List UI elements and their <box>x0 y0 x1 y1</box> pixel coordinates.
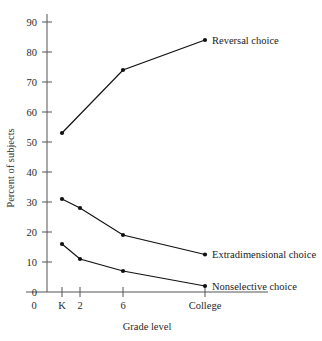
data-point-marker <box>203 252 207 256</box>
x-tick-label: K <box>58 300 66 311</box>
series-label-nonselective-choice: Nonselective choice <box>212 281 297 292</box>
series-line-reversal-choice <box>62 40 205 133</box>
series-label-reversal-choice: Reversal choice <box>212 35 279 46</box>
y-axis-title: Percent of subjects <box>5 128 16 207</box>
line-chart: 0102030405060708090 0K26College Reversal… <box>0 0 322 341</box>
data-point-marker <box>121 269 125 273</box>
data-point-marker <box>78 257 82 261</box>
series-line-nonselective-choice <box>62 244 205 286</box>
y-tick-label: 70 <box>27 77 38 88</box>
x-axis-title: Grade level <box>123 321 172 332</box>
y-tick-label: 50 <box>27 137 38 148</box>
series-markers-group <box>60 38 207 288</box>
series-label-extradimensional-choice: Extradimensional choice <box>212 249 316 260</box>
y-tick-label: 90 <box>27 17 38 28</box>
y-tick-label: 10 <box>27 257 38 268</box>
x-axis-tick-labels: 0K26College <box>31 300 221 311</box>
data-point-marker <box>203 38 207 42</box>
x-tick-label: 2 <box>77 300 82 311</box>
y-tick-label: 0 <box>32 287 37 298</box>
x-tick-label: 6 <box>120 300 125 311</box>
data-point-marker <box>78 206 82 210</box>
x-tick-label: College <box>189 300 222 311</box>
series-line-extradimensional-choice <box>62 199 205 255</box>
series-labels-group: Reversal choiceExtradimensional choiceNo… <box>212 35 316 292</box>
data-point-marker <box>203 284 207 288</box>
data-point-marker <box>121 68 125 72</box>
chart-figure: 0102030405060708090 0K26College Reversal… <box>0 0 322 341</box>
y-tick-label: 60 <box>27 107 38 118</box>
y-tick-label: 40 <box>27 167 38 178</box>
y-tick-label: 30 <box>27 197 38 208</box>
x-tick-label: 0 <box>31 300 36 311</box>
y-axis-tick-labels: 0102030405060708090 <box>27 17 38 298</box>
data-point-marker <box>60 197 64 201</box>
data-point-marker <box>60 131 64 135</box>
y-tick-label: 80 <box>27 47 38 58</box>
y-tick-label: 20 <box>27 227 38 238</box>
data-point-marker <box>121 233 125 237</box>
series-lines-group <box>62 40 205 286</box>
data-point-marker <box>60 242 64 246</box>
